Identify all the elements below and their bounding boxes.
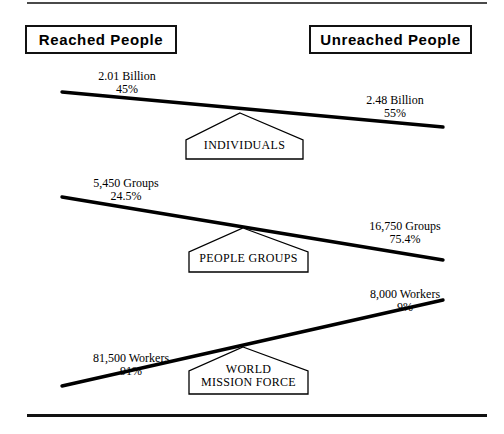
bottom-divider-rule — [27, 414, 487, 417]
fulcrum-label-people-groups: PEOPLE GROUPS — [189, 252, 308, 265]
label-individuals-unreached-percent: 55% — [330, 107, 460, 120]
fulcrum-label-world-mission-force-line2: MISSION FORCE — [189, 376, 308, 389]
fulcrum-label-individuals-line1: INDIVIDUALS — [204, 138, 285, 152]
label-world-mission-force-unreached: 8,000 Workers 9% — [330, 288, 480, 314]
fulcrum-label-world-mission-force-line1: WORLD — [226, 362, 272, 376]
label-people-groups-unreached: 16,750 Groups 75.4% — [330, 220, 480, 246]
fulcrum-label-people-groups-line1: PEOPLE GROUPS — [199, 251, 297, 265]
fulcrum-label-individuals: INDIVIDUALS — [186, 139, 303, 152]
fulcrum-individuals — [186, 113, 303, 159]
label-people-groups-reached: 5,450 Groups 24.5% — [56, 177, 196, 203]
label-individuals-reached: 2.01 Billion 45% — [62, 70, 192, 96]
label-individuals-unreached: 2.48 Billion 55% — [330, 94, 460, 120]
label-people-groups-reached-percent: 24.5% — [56, 190, 196, 203]
label-people-groups-unreached-percent: 75.4% — [330, 233, 480, 246]
chart-page: Reached People Unreached People 2.01 Bil… — [0, 0, 504, 434]
fulcrum-label-world-mission-force: WORLD MISSION FORCE — [189, 363, 308, 389]
label-world-mission-force-unreached-percent: 9% — [330, 301, 480, 314]
label-individuals-reached-percent: 45% — [62, 83, 192, 96]
label-world-mission-force-reached-percent: 91% — [56, 365, 206, 378]
label-world-mission-force-reached: 81,500 Workers 91% — [56, 352, 206, 378]
